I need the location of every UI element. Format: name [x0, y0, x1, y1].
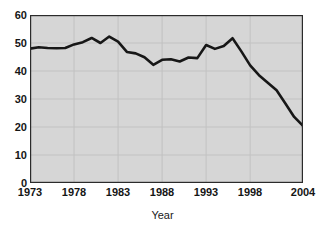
plot-svg — [30, 15, 303, 183]
y-tick-label-30: 30 — [3, 94, 27, 105]
y-tick-label-50: 50 — [3, 38, 27, 49]
line-chart: 60 50 40 30 20 10 0 1973 1978 1983 1988 … — [0, 0, 325, 233]
x-axis-tick-labels: 1973 1978 1983 1988 1993 1998 2004 — [0, 186, 325, 202]
x-tick-label-1988: 1988 — [150, 186, 174, 198]
x-tick-label-1978: 1978 — [62, 186, 86, 198]
x-tick-label-1983: 1983 — [106, 186, 130, 198]
y-tick-label-60: 60 — [3, 10, 27, 21]
y-tick-label-40: 40 — [3, 66, 27, 77]
plot-area — [30, 15, 303, 183]
x-tick-label-1993: 1993 — [194, 186, 218, 198]
x-tick-label-1973: 1973 — [18, 186, 42, 198]
x-tick-label-1998: 1998 — [238, 186, 262, 198]
y-tick-label-10: 10 — [3, 150, 27, 161]
x-tick-label-2004: 2004 — [291, 186, 315, 198]
x-axis-title: Year — [0, 209, 325, 221]
y-tick-label-20: 20 — [3, 122, 27, 133]
